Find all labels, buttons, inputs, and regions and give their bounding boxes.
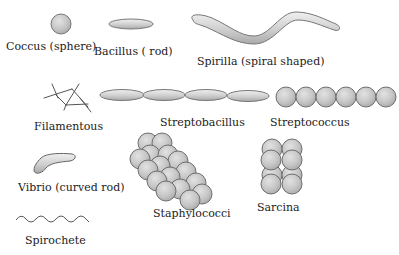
streptococcus-label: Streptococcus <box>270 117 350 128</box>
staphylococci-label: Staphylococci <box>153 208 231 219</box>
vibrio-label: Vibrio (curved rod) <box>18 182 124 193</box>
filamentous-label: Filamentous <box>34 121 103 132</box>
filamentous-shape <box>44 84 91 112</box>
spirochete-shape <box>16 216 89 222</box>
streptobacillus-label: Streptobacillus <box>160 117 245 128</box>
spirochete-label: Spirochete <box>25 235 86 246</box>
spirilla-shape <box>192 12 340 44</box>
staphylococci-shape <box>130 133 212 210</box>
vibrio-shape <box>34 153 75 173</box>
sarcina-shape <box>261 139 302 194</box>
sarcina-label: Sarcina <box>257 202 300 213</box>
coccus-label: Coccus (sphere) <box>6 41 96 52</box>
streptobacillus-shape <box>100 90 269 102</box>
coccus-shape <box>51 14 71 34</box>
bacillus-label: Bacillus ( rod) <box>94 46 173 57</box>
streptococcus-shape <box>276 87 396 107</box>
bacillus-shape <box>109 19 153 29</box>
spirilla-label: Spirilla (spiral shaped) <box>197 56 324 67</box>
